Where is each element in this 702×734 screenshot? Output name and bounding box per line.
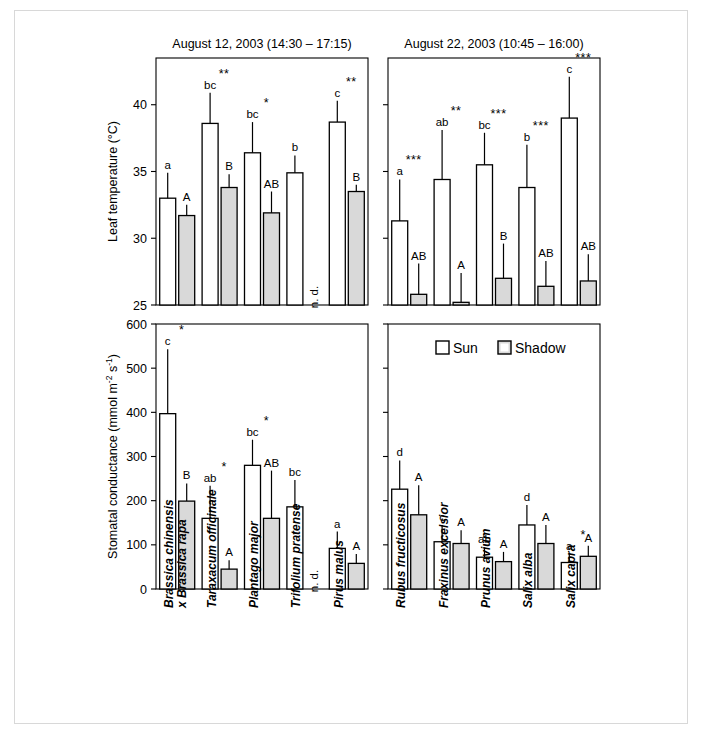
y-tick-label: 400 bbox=[126, 406, 147, 420]
significance-stars: *** bbox=[575, 51, 591, 65]
species-left-label: Brassica chinensis bbox=[162, 499, 176, 608]
sig-letter-shadow: AB bbox=[264, 178, 280, 190]
sig-letter-shadow: A bbox=[457, 516, 465, 528]
y-tick-label: 25 bbox=[133, 299, 147, 313]
significance-stars: ** bbox=[346, 75, 357, 89]
bar-sun bbox=[202, 123, 218, 305]
y-tick-label: 35 bbox=[133, 165, 147, 179]
bar-shadow bbox=[348, 563, 364, 589]
bar-sun bbox=[477, 165, 493, 305]
bar-shadow bbox=[580, 556, 596, 589]
panel-leaf-temp-aug22: a***ABab**Abc***Bb***ABc***AB bbox=[383, 51, 600, 305]
sig-letter-sun: bc bbox=[478, 119, 490, 131]
sig-letter-sun: b bbox=[524, 131, 530, 143]
species-right-label: Salix alba bbox=[521, 552, 535, 608]
significance-stars: ** bbox=[219, 67, 230, 81]
sig-letter-shadow: AB bbox=[538, 247, 554, 259]
sig-letter-shadow: B bbox=[183, 469, 191, 481]
figure-root: August 12, 2003 (14:30 – 17:15)August 22… bbox=[0, 0, 702, 734]
bar-sun bbox=[434, 179, 450, 305]
sig-letter-sun: b bbox=[292, 141, 298, 153]
bar-shadow bbox=[411, 515, 427, 589]
y-tick-label: 0 bbox=[140, 583, 147, 597]
species-left-label: x Brassica rapa bbox=[175, 519, 189, 609]
y-tick-label: 600 bbox=[126, 318, 147, 332]
species-right-label: Prunus avium bbox=[479, 528, 493, 608]
sig-letter-shadow: AB bbox=[411, 250, 427, 262]
bar-shadow bbox=[221, 569, 237, 589]
sig-letter-sun: ab bbox=[204, 472, 217, 484]
species-left-label: Trifolium pratense bbox=[289, 503, 303, 608]
sig-letter-sun: bc bbox=[246, 426, 258, 438]
bar-sun bbox=[287, 173, 303, 305]
significance-stars: * bbox=[179, 323, 184, 337]
species-right-label: Rubus fructicosus bbox=[394, 502, 408, 608]
bar-shadow bbox=[580, 281, 596, 305]
bar-shadow bbox=[264, 213, 280, 305]
panel-titles: August 12, 2003 (14:30 – 17:15)August 22… bbox=[172, 37, 583, 51]
bar-shadow bbox=[538, 286, 554, 305]
bar-shadow bbox=[496, 278, 512, 305]
y-tick-label: 30 bbox=[133, 232, 147, 246]
legend-label-sun: Sun bbox=[453, 340, 478, 356]
legend: SunShadow bbox=[436, 340, 566, 356]
sig-letter-sun: c bbox=[165, 335, 171, 347]
sig-letter-sun: bc bbox=[289, 466, 301, 478]
sig-letter-sun: a bbox=[164, 159, 171, 171]
significance-stars: *** bbox=[490, 107, 506, 121]
sig-letter-shadow: AB bbox=[581, 240, 597, 252]
sig-letter-shadow: A bbox=[183, 191, 191, 203]
sig-letter-sun: a bbox=[396, 165, 403, 177]
species-right-label: Salix capra bbox=[564, 544, 578, 608]
significance-stars: * bbox=[221, 460, 226, 474]
bar-sun bbox=[519, 188, 535, 305]
bar-shadow bbox=[411, 294, 427, 305]
sig-letter-shadow: A bbox=[352, 540, 360, 552]
species-right-label: Fraxinus excelsior bbox=[437, 501, 451, 608]
bar-shadow bbox=[264, 518, 280, 589]
panel-title-aug22: August 22, 2003 (10:45 – 16:00) bbox=[404, 37, 583, 51]
bar-shadow bbox=[453, 544, 469, 589]
y-tick-label: 300 bbox=[126, 450, 147, 464]
sig-letter-shadow: A bbox=[225, 546, 233, 558]
not-determined-label: n. d. bbox=[308, 570, 320, 592]
bar-sun bbox=[561, 118, 577, 305]
sig-letter-shadow: A bbox=[457, 259, 465, 271]
sig-letter-shadow: B bbox=[352, 171, 360, 183]
significance-stars: ** bbox=[451, 104, 462, 118]
sig-letter-shadow: A bbox=[415, 471, 423, 483]
legend-swatch-shadow-inner bbox=[501, 344, 509, 352]
sig-letter-shadow: A bbox=[584, 532, 592, 544]
sig-letter-shadow: B bbox=[500, 230, 508, 242]
y-axis-title-conductance: Stomatal conductance (mmol m-2 s-1) bbox=[104, 354, 120, 559]
bar-shadow bbox=[538, 544, 554, 589]
y-axis-title-temperature: Leaf temperature (°C) bbox=[106, 121, 120, 242]
bar-sun bbox=[329, 122, 345, 305]
bar-sun bbox=[392, 221, 408, 305]
legend-swatch-sun bbox=[436, 341, 449, 354]
species-left-label: Plantago major bbox=[247, 520, 261, 608]
y-tick-label: 200 bbox=[126, 494, 147, 508]
y-axis-titles: Leaf temperature (°C)Stomatal conductanc… bbox=[104, 121, 120, 559]
y-tick-label: 500 bbox=[126, 362, 147, 376]
sig-letter-shadow: B bbox=[225, 160, 233, 172]
species-left-label: Taraxacum officinale bbox=[205, 489, 219, 608]
sig-letter-shadow: A bbox=[500, 538, 508, 550]
bar-sun bbox=[160, 198, 176, 305]
sig-letter-sun: bc bbox=[246, 108, 258, 120]
sig-letter-sun: d bbox=[396, 446, 402, 458]
bar-shadow bbox=[221, 188, 237, 305]
bar-shadow bbox=[496, 562, 512, 589]
y-tick-label: 40 bbox=[133, 98, 147, 112]
sig-letter-shadow: A bbox=[542, 511, 550, 523]
bar-sun bbox=[245, 153, 261, 305]
not-determined-label: n. d. bbox=[308, 286, 320, 308]
scientific-figure: August 12, 2003 (14:30 – 17:15)August 22… bbox=[0, 0, 702, 734]
panel-title-aug12: August 12, 2003 (14:30 – 17:15) bbox=[172, 37, 351, 51]
sig-letter-shadow: AB bbox=[264, 457, 280, 469]
y-tick-label: 100 bbox=[126, 538, 147, 552]
sig-letter-sun: a bbox=[334, 518, 341, 530]
sig-letter-sun: c bbox=[566, 63, 572, 75]
significance-stars: * bbox=[264, 96, 269, 110]
sig-letter-sun: c bbox=[334, 87, 340, 99]
